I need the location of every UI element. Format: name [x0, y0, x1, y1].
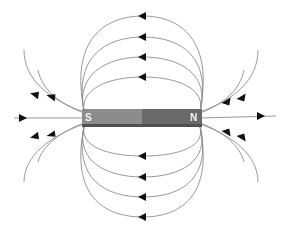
arrow-left-icon: [138, 12, 146, 20]
arrow-left-icon: [138, 152, 146, 160]
field-line-top-4: [84, 77, 201, 112]
arrow-right-icon: [19, 114, 27, 122]
arrow-up-right-icon: [236, 92, 245, 101]
bar-magnet: S N: [82, 109, 202, 127]
bottom-field-loops: [81, 126, 203, 217]
arrow-right-icon: [257, 112, 265, 120]
top-field-loops: [81, 16, 203, 112]
field-line-top-1: [81, 16, 203, 110]
field-line-bottom-4: [81, 127, 203, 217]
field-line-bottom-2: [83, 126, 202, 177]
arrow-left-icon: [138, 213, 146, 221]
field-line-top-2: [82, 37, 203, 111]
arrow-up-right-icon: [30, 130, 41, 140]
field-line-left-3: [38, 123, 84, 162]
south-pole-label: S: [85, 112, 92, 123]
north-pole-label: N: [190, 112, 197, 123]
field-line-right-axis: [200, 116, 276, 118]
magnet-bottom-edge: [82, 124, 202, 127]
magnetic-field-diagram: S N: [0, 0, 282, 236]
field-line-left-1: [24, 50, 84, 112]
arrow-up-right-icon: [47, 129, 57, 137]
arrow-left-icon: [138, 73, 146, 81]
field-line-bottom-1: [84, 126, 201, 156]
left-side-arrows: [19, 91, 57, 140]
field-line-right-3: [200, 123, 244, 162]
arrow-left-icon: [138, 53, 146, 61]
field-line-bottom-3: [82, 127, 203, 197]
arrow-down-right-icon: [236, 134, 245, 143]
arrow-left-icon: [138, 193, 146, 201]
left-side-field-lines: [14, 50, 84, 182]
arrow-left-icon: [138, 33, 146, 41]
arrow-down-right-icon: [30, 91, 41, 101]
arrow-left-icon: [138, 173, 146, 181]
